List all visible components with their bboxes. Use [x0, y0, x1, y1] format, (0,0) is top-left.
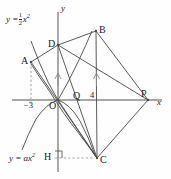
- y-axis-label: y: [61, 4, 65, 13]
- arrow-tick-y-axis: [55, 73, 61, 86]
- point-label-P: P: [141, 89, 147, 99]
- segment-O-C: [58, 100, 97, 158]
- segment-D-B: [58, 31, 96, 45]
- segment-D-P: [58, 45, 148, 100]
- label-equation-upward-parabola: y =12x2: [6, 12, 30, 27]
- x-tick-label-negative-3: −3: [24, 101, 33, 110]
- point-label-H: H: [44, 152, 51, 162]
- dot-B: [95, 30, 97, 32]
- axis-lines: [12, 12, 162, 172]
- dot-C: [96, 157, 98, 159]
- arrow-tick-x4-line: [94, 73, 100, 86]
- point-label-D: D: [48, 39, 55, 49]
- curve-upward-parabola: [31, 31, 92, 100]
- geometry-figure: y =12x2 y = ax2 y x A B C D O P Q H −3 4: [0, 0, 171, 179]
- point-label-Q: Q: [73, 91, 80, 101]
- segment-B-C-vertical: [96, 31, 97, 158]
- point-label-O: O: [49, 101, 56, 111]
- point-label-B: B: [99, 25, 106, 35]
- dot-P: [147, 99, 149, 101]
- label-equation-downward-parabola: y = ax2: [9, 152, 35, 163]
- segment-P-C: [97, 100, 148, 158]
- point-label-A: A: [21, 56, 28, 66]
- dot-D: [57, 44, 59, 46]
- x-tick-label-4: 4: [90, 91, 94, 100]
- segment-D-C: [58, 45, 97, 158]
- dot-A: [30, 61, 32, 63]
- point-label-C: C: [100, 155, 107, 165]
- parallel-tick-arrows: [55, 73, 100, 86]
- x-axis-label: x: [157, 98, 161, 107]
